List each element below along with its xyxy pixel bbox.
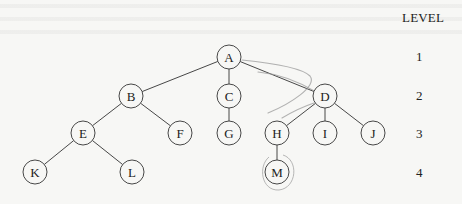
level-column-header: LEVEL xyxy=(402,10,444,26)
node-label: A xyxy=(224,50,234,65)
edge-b-e xyxy=(93,103,122,125)
edge-d-j xyxy=(335,103,364,125)
edge-b-f xyxy=(141,103,171,126)
tree-node-m: M xyxy=(265,160,289,184)
edge-a-d xyxy=(240,62,314,92)
tree-node-g: G xyxy=(217,121,241,145)
node-label: L xyxy=(128,165,136,180)
node-label: B xyxy=(127,89,136,104)
edge-e-l xyxy=(92,140,122,164)
tree-graph: ABCDEFGHIJKLM xyxy=(0,0,462,204)
tree-node-k: K xyxy=(23,160,47,184)
node-label: F xyxy=(176,126,183,141)
tree-node-c: C xyxy=(217,84,241,108)
tree-node-h: H xyxy=(265,121,289,145)
tree-edges xyxy=(44,61,363,164)
edge-e-k xyxy=(44,141,73,165)
node-label: I xyxy=(323,126,327,141)
tree-node-a: A xyxy=(217,45,241,69)
pencil-scribble-3 xyxy=(282,103,314,118)
level-number-3: 3 xyxy=(416,126,423,142)
node-label: K xyxy=(30,165,40,180)
edge-d-h xyxy=(287,103,316,125)
level-number-1: 1 xyxy=(416,49,423,65)
tree-nodes: ABCDEFGHIJKLM xyxy=(23,45,385,184)
node-label: H xyxy=(272,126,281,141)
node-label: C xyxy=(225,89,234,104)
level-number-4: 4 xyxy=(416,165,423,181)
tree-node-e: E xyxy=(71,121,95,145)
tree-diagram: ABCDEFGHIJKLM LEVEL 1234 xyxy=(0,0,462,204)
tree-node-d: D xyxy=(313,84,337,108)
node-label: D xyxy=(320,89,329,104)
edge-a-b xyxy=(142,61,218,91)
node-label: M xyxy=(271,165,283,180)
node-label: E xyxy=(79,126,87,141)
tree-node-b: B xyxy=(119,84,143,108)
tree-node-j: J xyxy=(361,121,385,145)
tree-node-i: I xyxy=(313,121,337,145)
level-number-2: 2 xyxy=(416,88,423,104)
node-label: J xyxy=(370,126,375,141)
node-label: G xyxy=(224,126,233,141)
tree-node-f: F xyxy=(168,121,192,145)
tree-node-l: L xyxy=(120,160,144,184)
